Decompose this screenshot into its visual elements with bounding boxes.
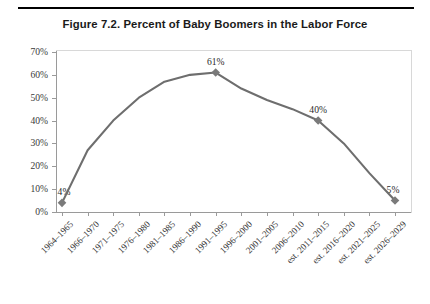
chart-plot-area: 0%10%20%30%40%50%60%70% 1964–19651966–19…	[0, 0, 430, 304]
figure-root: Figure 7.2. Percent of Baby Boomers in t…	[0, 0, 430, 304]
series-marker	[58, 199, 67, 208]
series-layer	[0, 0, 430, 304]
series-markers	[58, 68, 400, 207]
series-line-baby-boomers	[62, 73, 395, 203]
